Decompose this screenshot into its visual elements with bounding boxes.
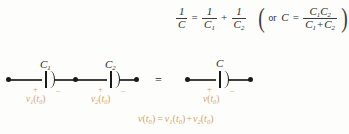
or-word: or: [269, 13, 279, 23]
beq-rhs2-paren-close: ): [210, 113, 213, 124]
formula-plus: +: [220, 11, 229, 23]
capacitor-eq-plate-curved: [222, 71, 229, 88]
capacitor-eq-plate-straight: [219, 71, 221, 88]
term1-denominator: C1: [202, 18, 217, 31]
alt-fraction: C1C2 C1+C2: [303, 6, 337, 30]
formula-lhs-fraction: 1 C: [176, 6, 187, 30]
series-capacitance-formula: 1 C = 1 C1 + 1 C2 ( or C = C1C2 C1+C2 ): [176, 6, 349, 30]
left-wire-segment-3: [76, 79, 107, 81]
alt-denominator: C1+C2: [303, 18, 337, 31]
left-wire-segment-1: [9, 79, 42, 81]
capacitor-equivalent-plus-mark: +: [207, 85, 212, 94]
alt-den-b-sub: 2: [332, 23, 335, 30]
formula-term1-fraction: 1 C1: [202, 6, 217, 30]
capacitor-2-minus-mark: –: [121, 86, 125, 95]
formula-equals: =: [190, 11, 199, 23]
paren-open: (: [258, 8, 264, 29]
capacitor-1-plate-straight: [45, 71, 47, 88]
term2-den-base: C: [234, 18, 241, 30]
capacitor-equivalent-voltage-label: v(t0): [203, 95, 219, 105]
alt-num-a: C: [309, 5, 316, 17]
capacitor-2-label: C2: [105, 58, 116, 70]
capacitor-2-plate-curved: [113, 71, 120, 88]
capacitor-2-plate-straight: [110, 71, 112, 88]
capacitor-1-plate-curved: [48, 71, 55, 88]
v1-paren-close: ): [42, 94, 45, 104]
capacitor-1-label: C1: [40, 58, 51, 70]
capacitor-2-plus-mark: +: [98, 85, 103, 94]
term1-den-sub: 1: [211, 23, 214, 30]
lhs-denominator: C: [176, 18, 187, 31]
left-terminal-node-a: [6, 77, 11, 82]
capacitor-2-voltage-label: v2(t0): [91, 95, 110, 105]
alt-den-b: C: [324, 18, 331, 30]
capacitor-2-symbol: [107, 71, 119, 88]
capacitor-equivalent-symbol: [216, 71, 228, 88]
capacitor-1-plus-mark: +: [33, 85, 38, 94]
right-terminal-node-b: [248, 77, 253, 82]
paren-close: ): [341, 8, 347, 29]
lhs-numerator: 1: [176, 6, 187, 18]
alt-equals: =: [291, 11, 300, 23]
capacitor-1-voltage-label: v1(t0): [26, 95, 45, 105]
left-terminal-node-b: [134, 77, 139, 82]
alt-den-plus: +: [316, 18, 324, 30]
v-paren-close: ): [216, 94, 219, 104]
alt-numerator: C1C2: [303, 6, 337, 18]
term1-numerator: 1: [202, 6, 217, 18]
capacitor-equivalent-label: C: [216, 57, 223, 69]
voltage-sum-equation: v(t0)=v1(t0)+v2(t0): [138, 114, 214, 124]
capacitor-1-label-sub: 1: [47, 64, 50, 71]
capacitor-1-minus-mark: –: [56, 86, 60, 95]
formula-term2-fraction: 1 C2: [232, 6, 247, 30]
term2-numerator: 1: [232, 6, 247, 18]
alt-lhs: C: [281, 11, 288, 23]
left-middle-node: [73, 77, 78, 82]
capacitor-2-label-sub: 2: [112, 64, 115, 71]
alt-den-a: C: [305, 18, 312, 30]
equivalence-equals-sign: =: [155, 73, 162, 88]
capacitor-1-symbol: [42, 71, 54, 88]
beq-plus: +: [185, 113, 193, 124]
beq-equals: =: [155, 113, 165, 124]
right-terminal-node-a: [185, 77, 190, 82]
term2-denominator: C2: [232, 18, 247, 31]
right-wire-segment-1: [188, 79, 216, 81]
term2-den-sub: 2: [241, 23, 244, 30]
capacitor-equivalent-minus-mark: –: [230, 86, 234, 95]
v2-paren-close: ): [107, 94, 110, 104]
